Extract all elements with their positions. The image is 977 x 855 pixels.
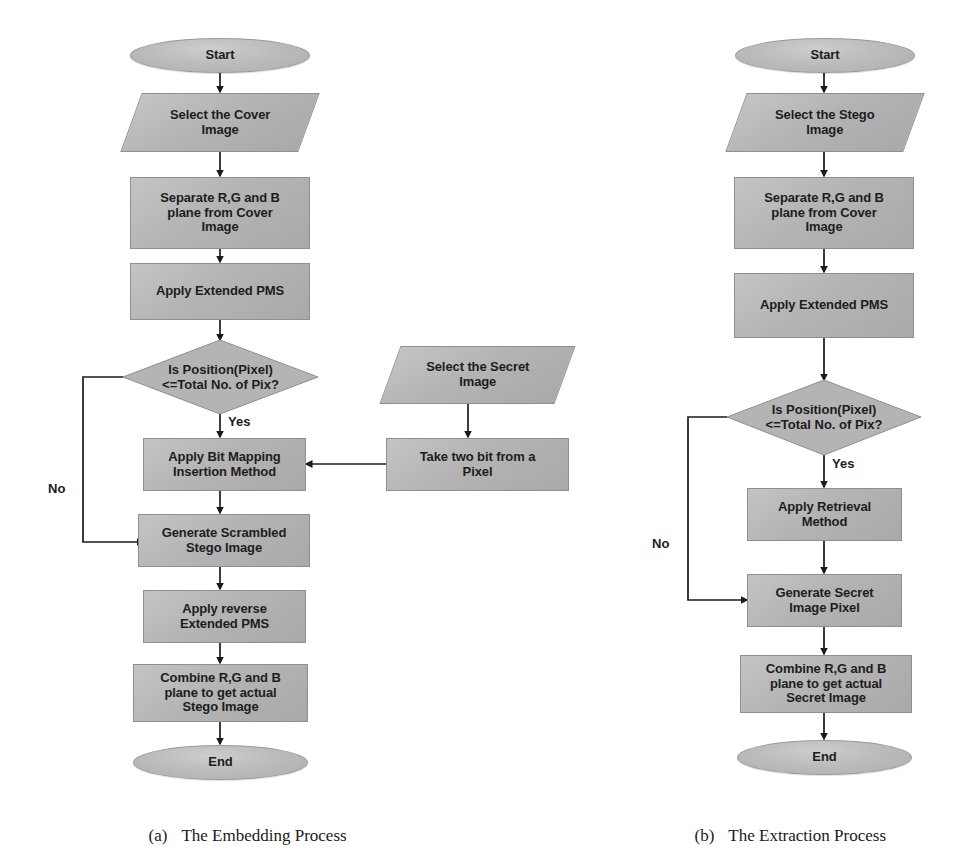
node-decision-extraction[interactable]: Is Position(Pixel) <=Total No. of Pix? <box>727 380 921 455</box>
node-combine-planes-stego[interactable]: Combine R,G and B plane to get actual St… <box>133 664 308 722</box>
node-select-cover-image-label: Select the Cover Image <box>170 108 270 137</box>
edge-label-no-extraction: No <box>652 536 669 551</box>
caption-extraction-tag: (b) <box>695 826 715 845</box>
node-generate-scrambled-stego-label: Generate Scrambled Stego Image <box>162 526 287 555</box>
node-decision-embedding[interactable]: Is Position(Pixel) <=Total No. of Pix? <box>123 340 318 415</box>
node-generate-secret-image-pixel-label: Generate Secret Image Pixel <box>775 586 873 615</box>
caption-embedding-text: The Embedding Process <box>181 826 346 845</box>
node-separate-planes-embedding[interactable]: Separate R,G and B plane from Cover Imag… <box>130 177 310 249</box>
node-select-secret-image[interactable]: Select the Secret Image <box>379 346 575 404</box>
node-separate-planes-embedding-label: Separate R,G and B plane from Cover Imag… <box>160 191 280 235</box>
node-apply-bit-mapping-insertion[interactable]: Apply Bit Mapping Insertion Method <box>143 438 306 491</box>
edge-label-yes-extraction: Yes <box>832 456 854 471</box>
node-apply-reverse-extended-pms-label: Apply reverse Extended PMS <box>180 602 269 631</box>
node-apply-extended-pms-extraction-label: Apply Extended PMS <box>760 298 888 313</box>
edge-label-no-embedding: No <box>48 481 65 496</box>
node-generate-secret-image-pixel[interactable]: Generate Secret Image Pixel <box>747 574 902 627</box>
node-generate-scrambled-stego[interactable]: Generate Scrambled Stego Image <box>138 514 310 567</box>
caption-embedding: (a)The Embedding Process <box>140 806 347 846</box>
node-select-secret-image-label: Select the Secret Image <box>426 360 529 389</box>
edge-label-yes-embedding: Yes <box>228 414 250 429</box>
node-apply-reverse-extended-pms[interactable]: Apply reverse Extended PMS <box>143 590 306 643</box>
node-decision-embedding-label: Is Position(Pixel) <=Total No. of Pix? <box>123 340 318 415</box>
node-decision-extraction-label: Is Position(Pixel) <=Total No. of Pix? <box>727 380 921 455</box>
caption-extraction-text: The Extraction Process <box>728 826 886 845</box>
node-end-extraction[interactable]: End <box>737 740 912 775</box>
node-end-embedding-label: End <box>208 755 232 770</box>
node-start-extraction[interactable]: Start <box>735 38 915 73</box>
node-apply-extended-pms-embedding[interactable]: Apply Extended PMS <box>130 263 310 320</box>
node-select-cover-image[interactable]: Select the Cover Image <box>120 93 319 152</box>
node-apply-extended-pms-extraction[interactable]: Apply Extended PMS <box>734 273 914 338</box>
caption-embedding-tag: (a) <box>149 826 168 845</box>
node-separate-planes-extraction-label: Separate R,G and B plane from Cover Imag… <box>764 191 884 235</box>
node-apply-retrieval-method-label: Apply Retrieval Method <box>778 500 871 529</box>
node-apply-extended-pms-embedding-label: Apply Extended PMS <box>156 284 284 299</box>
node-combine-planes-secret[interactable]: Combine R,G and B plane to get actual Se… <box>740 655 912 713</box>
node-take-two-bit-from-pixel-label: Take two bit from a Pixel <box>420 450 536 479</box>
node-start-extraction-label: Start <box>810 48 839 63</box>
node-end-embedding[interactable]: End <box>133 745 308 780</box>
node-start-embedding[interactable]: Start <box>130 38 310 73</box>
node-take-two-bit-from-pixel[interactable]: Take two bit from a Pixel <box>386 438 569 491</box>
node-select-stego-image-label: Select the Stego Image <box>775 108 875 137</box>
node-select-stego-image[interactable]: Select the Stego Image <box>725 93 924 152</box>
node-end-extraction-label: End <box>812 750 836 765</box>
caption-extraction: (b)The Extraction Process <box>686 806 886 846</box>
node-apply-retrieval-method[interactable]: Apply Retrieval Method <box>747 488 902 541</box>
node-separate-planes-extraction[interactable]: Separate R,G and B plane from Cover Imag… <box>734 177 914 249</box>
node-apply-bit-mapping-insertion-label: Apply Bit Mapping Insertion Method <box>168 450 280 479</box>
node-start-embedding-label: Start <box>205 48 234 63</box>
node-combine-planes-stego-label: Combine R,G and B plane to get actual St… <box>160 671 280 715</box>
node-combine-planes-secret-label: Combine R,G and B plane to get actual Se… <box>766 662 886 706</box>
